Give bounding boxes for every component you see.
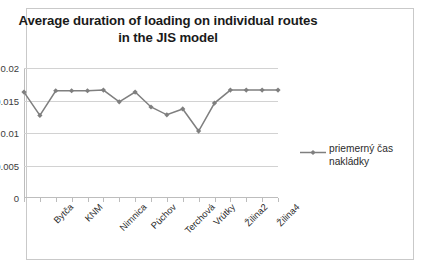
x-axis-tick <box>199 198 200 202</box>
x-axis-tick <box>72 198 73 202</box>
chart-title: Average duration of loading on individua… <box>18 12 318 46</box>
x-axis-tick <box>88 198 89 202</box>
x-axis-tick <box>167 198 168 202</box>
x-axis-tick <box>151 198 152 202</box>
data-point-marker <box>260 88 265 93</box>
plot-area: 00.0050.010.0150.02 BytčaKNMNimnicaPúcho… <box>24 68 278 198</box>
x-axis-tick <box>24 198 25 202</box>
x-axis-tick <box>40 198 41 202</box>
y-axis-tick-label: 0.005 <box>0 160 19 171</box>
chart-legend: priemerný čas nakládky <box>300 142 420 168</box>
legend-marker-icon <box>300 148 326 157</box>
y-axis-tick-label: 0.02 <box>1 63 20 74</box>
x-axis-tick <box>119 198 120 202</box>
data-point-marker <box>164 112 169 117</box>
series-line-priemerny-cas-nakladky <box>24 68 278 198</box>
x-axis-tick <box>56 198 57 202</box>
legend-entry-label: priemerný čas nakládky <box>329 142 420 168</box>
data-point-marker <box>244 88 249 93</box>
x-axis-tick <box>230 198 231 202</box>
x-axis-tick <box>183 198 184 202</box>
y-axis-tick-label: 0.015 <box>0 95 19 106</box>
y-axis-tick-label: 0 <box>14 193 19 204</box>
x-axis-tick <box>135 198 136 202</box>
series-line <box>24 90 278 131</box>
y-axis-tick-label: 0.01 <box>1 128 20 139</box>
x-axis-tick <box>103 198 104 202</box>
x-axis-tick <box>246 198 247 202</box>
data-point-marker <box>69 88 74 93</box>
data-point-marker <box>85 88 90 93</box>
x-axis-tick <box>215 198 216 202</box>
x-axis-tick <box>278 198 279 202</box>
